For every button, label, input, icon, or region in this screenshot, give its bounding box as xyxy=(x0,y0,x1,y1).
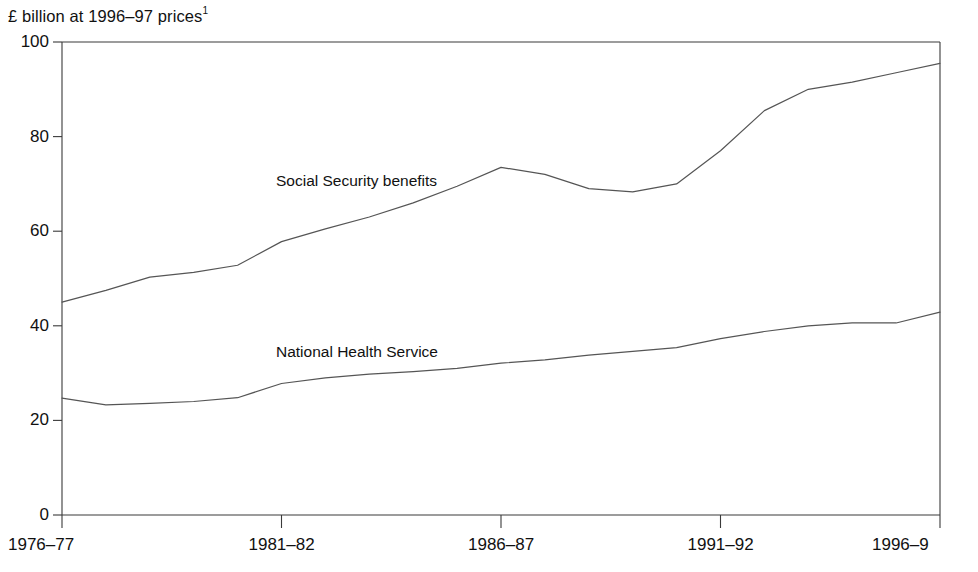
series-label: Social Security benefits xyxy=(276,172,437,190)
x-axis-tick-label: 1991–92 xyxy=(688,535,754,555)
chart-plot-area xyxy=(0,0,978,572)
x-axis-tick-label: 1981–82 xyxy=(249,535,315,555)
x-axis-tick-label: 1986–87 xyxy=(468,535,534,555)
chart-series-lines xyxy=(62,63,940,405)
y-axis-tick-label: 60 xyxy=(5,221,49,241)
chart-frame xyxy=(62,42,940,515)
x-axis-tick-label: 1996–9 xyxy=(872,535,929,555)
chart-tick-marks xyxy=(53,42,940,528)
chart-figure: £ billion at 1996–97 prices1 02040608010… xyxy=(0,0,978,572)
y-axis-tick-label: 40 xyxy=(5,316,49,336)
y-axis-tick-label: 20 xyxy=(5,410,49,430)
y-axis-tick-label: 0 xyxy=(5,505,49,525)
y-axis-tick-label: 100 xyxy=(5,32,49,52)
y-axis-tick-label: 80 xyxy=(5,127,49,147)
x-axis-tick-label: 1976–77 xyxy=(8,535,74,555)
series-label: National Health Service xyxy=(276,343,438,361)
